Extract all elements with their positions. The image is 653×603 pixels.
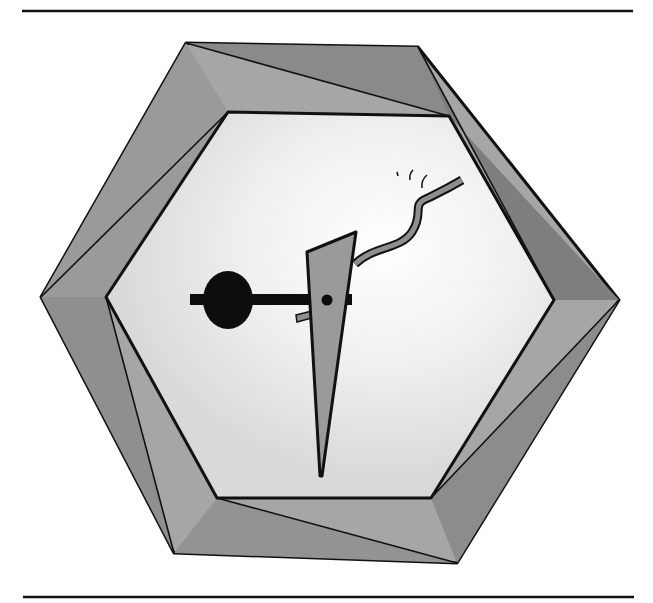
black-disc <box>203 271 253 329</box>
wedge-dot <box>322 295 333 306</box>
hexagon-illustration <box>0 0 653 603</box>
